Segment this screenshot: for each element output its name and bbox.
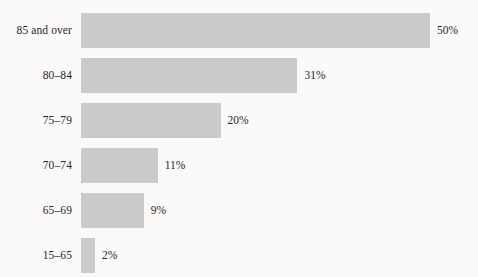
category-label: 70–74 — [0, 148, 72, 183]
bar-area: 2% — [81, 238, 117, 273]
bar-row: 65–69 9% — [0, 193, 478, 228]
bar-row: 15–65 2% — [0, 238, 478, 273]
bar-value-label: 20% — [228, 103, 249, 138]
category-label: 80–84 — [0, 58, 72, 93]
bar-row: 70–74 11% — [0, 148, 478, 183]
bar-value-label: 50% — [437, 13, 458, 48]
bar — [81, 193, 144, 228]
bar — [81, 238, 95, 273]
category-label: 85 and over — [0, 13, 72, 48]
bar-value-label: 11% — [165, 148, 186, 183]
bar-area: 31% — [81, 58, 325, 93]
bar-row: 85 and over 50% — [0, 13, 478, 48]
bar-value-label: 9% — [151, 193, 166, 228]
category-label: 75–79 — [0, 103, 72, 138]
bar — [81, 148, 158, 183]
bar-rows: 85 and over 50% 80–84 31% 75–79 20% 70–7… — [0, 13, 478, 277]
bar-area: 20% — [81, 103, 249, 138]
bar-value-label: 2% — [102, 238, 117, 273]
bar-value-label: 31% — [304, 58, 325, 93]
bar — [81, 103, 221, 138]
bar-row: 75–79 20% — [0, 103, 478, 138]
bar-area: 9% — [81, 193, 166, 228]
bar-area: 50% — [81, 13, 458, 48]
bar — [81, 13, 430, 48]
category-label: 65–69 — [0, 193, 72, 228]
bar-row: 80–84 31% — [0, 58, 478, 93]
bar — [81, 58, 297, 93]
category-label: 15–65 — [0, 238, 72, 273]
bar-area: 11% — [81, 148, 185, 183]
